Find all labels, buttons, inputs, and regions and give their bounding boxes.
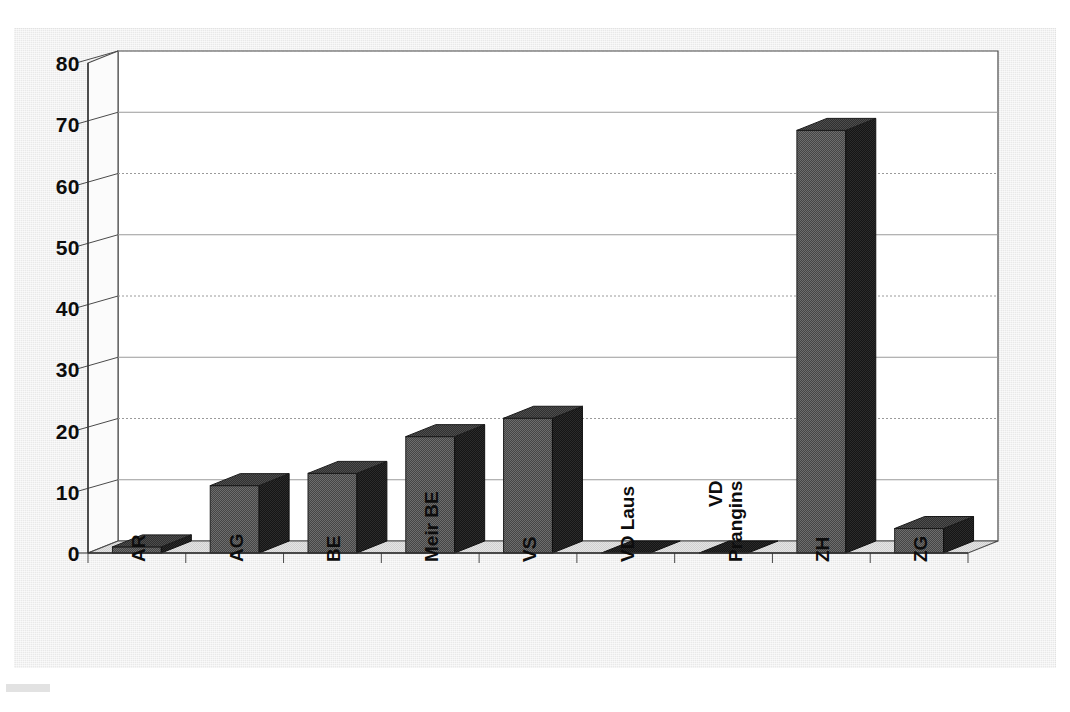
x-tick-label-line: Prangins [726, 481, 746, 562]
chart-page: 01020304050607080 ARAGBEMeir BEVSVD Laus… [0, 0, 1070, 712]
x-axis: ARAGBEMeir BEVSVD LausVDPranginsZHZG [0, 0, 1070, 712]
x-tick-label: BE [324, 536, 344, 562]
x-tick-label: Meir BE [422, 491, 442, 562]
x-tick-label-line: VD Laus [617, 486, 638, 562]
x-tick-label: ZH [813, 537, 833, 562]
x-tick-label: AG [227, 534, 247, 563]
x-tick-label-line: Meir BE [421, 491, 442, 562]
x-tick-label-line: ZH [812, 537, 833, 562]
x-tick-label: VS [520, 537, 540, 562]
x-tick-label-line: AR [128, 535, 149, 562]
x-tick-label: VDPrangins [706, 481, 746, 562]
x-tick-label-line: VS [519, 537, 540, 562]
x-tick-label-line: BE [323, 536, 344, 562]
x-tick-label: VD Laus [618, 486, 638, 562]
x-tick-label-line: VD [705, 481, 726, 507]
x-tick-label-line: AG [226, 534, 247, 563]
x-tick-label: ZG [911, 536, 931, 562]
x-tick-label-line: ZG [910, 536, 931, 562]
x-tick-label: AR [129, 535, 149, 562]
